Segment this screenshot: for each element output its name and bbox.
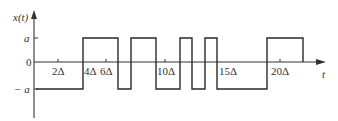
y-axis-arrow-icon bbox=[31, 10, 37, 19]
x-tick-label-10: 10Δ bbox=[157, 65, 175, 77]
y-level-neg-a-label: − a bbox=[14, 83, 30, 95]
x-tick-label-4: 4Δ bbox=[84, 65, 97, 77]
x-tick-label-20: 20Δ bbox=[271, 65, 289, 77]
x-tick-label-15: 15Δ bbox=[219, 65, 237, 77]
y-axis-label: x(t) bbox=[12, 11, 29, 24]
waveform bbox=[36, 38, 303, 89]
binary-waveform-diagram: x(t) t a 0 − a 2Δ 4Δ 6Δ 10Δ 15Δ 20Δ bbox=[0, 0, 338, 121]
x-axis-arrow-icon bbox=[316, 59, 326, 65]
y-level-zero-label: 0 bbox=[26, 56, 32, 68]
x-axis-label: t bbox=[322, 68, 326, 80]
x-tick-label-2: 2Δ bbox=[52, 65, 65, 77]
y-level-a-label: a bbox=[24, 32, 30, 44]
x-tick-label-6: 6Δ bbox=[100, 65, 113, 77]
